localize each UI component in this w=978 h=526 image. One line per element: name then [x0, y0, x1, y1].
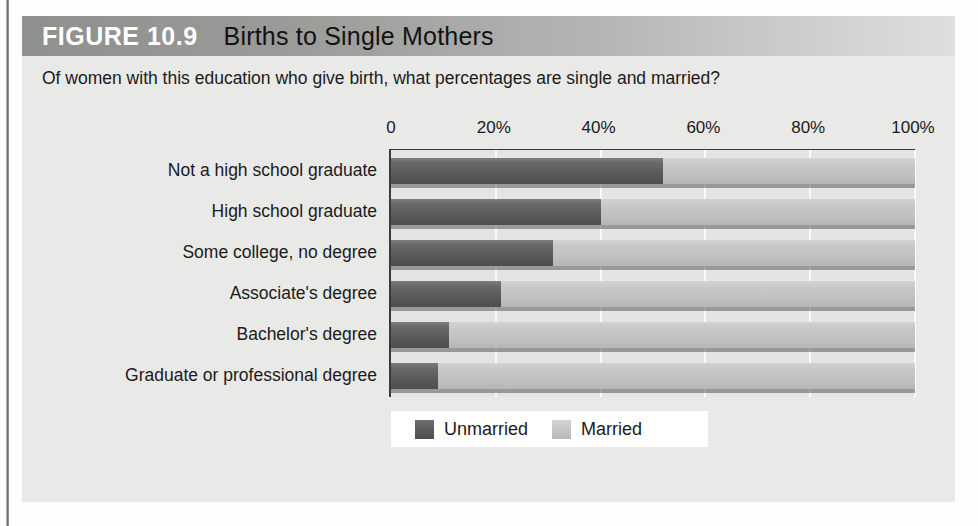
bar-row	[391, 199, 915, 225]
bar-row	[391, 322, 915, 348]
bar-segment-married	[501, 281, 915, 307]
x-tick-label: 80%	[791, 118, 825, 138]
bar-segment-married	[438, 363, 915, 389]
bar-row	[391, 363, 915, 389]
legend-label-married: Married	[581, 419, 642, 440]
category-label: Not a high school graduate	[168, 159, 377, 180]
bar-segment-unmarried	[391, 158, 663, 184]
page-gutter-line	[6, 0, 9, 526]
x-tick-label: 60%	[686, 118, 720, 138]
x-tick-label: 20%	[477, 118, 511, 138]
category-label: Bachelor's degree	[236, 324, 377, 345]
y-axis-category-labels: Not a high school graduateHigh school gr…	[22, 149, 377, 396]
bar-shadow	[391, 348, 915, 352]
legend-item-married: Married	[552, 419, 642, 440]
bar-shadow	[391, 307, 915, 311]
legend-swatch-unmarried	[415, 420, 434, 439]
bar-segment-unmarried	[391, 199, 601, 225]
bar-row	[391, 240, 915, 266]
category-label: Associate's degree	[230, 283, 377, 304]
bar-segment-married	[449, 322, 915, 348]
bar-chart: 020%40%60%80%100% Not a high school grad…	[22, 104, 955, 502]
legend-item-unmarried: Unmarried	[415, 419, 528, 440]
category-label: Some college, no degree	[182, 241, 377, 262]
x-tick-label: 40%	[582, 118, 616, 138]
bar-shadow	[391, 266, 915, 270]
plot-area	[389, 149, 915, 397]
bar-segment-unmarried	[391, 322, 449, 348]
bar-segment-unmarried	[391, 240, 553, 266]
bar-shadow	[391, 389, 915, 393]
bar-row	[391, 281, 915, 307]
figure-subtitle: Of women with this education who give bi…	[42, 68, 942, 89]
bar-segment-married	[553, 240, 915, 266]
legend-label-unmarried: Unmarried	[444, 419, 528, 440]
bar-row	[391, 158, 915, 184]
bar-shadow	[391, 184, 915, 188]
figure-title-bar: FIGURE 10.9 Births to Single Mothers	[22, 16, 955, 56]
figure-panel: FIGURE 10.9 Births to Single Mothers Of …	[22, 16, 955, 502]
category-label: Graduate or professional degree	[125, 365, 377, 386]
bar-segment-unmarried	[391, 281, 501, 307]
x-tick-label: 100%	[891, 118, 934, 138]
figure-title-text: Births to Single Mothers	[224, 22, 494, 51]
bar-segment-unmarried	[391, 363, 438, 389]
bar-segment-married	[663, 158, 915, 184]
x-axis-tick-labels: 020%40%60%80%100%	[22, 118, 955, 144]
bar-shadow	[391, 225, 915, 229]
bar-segment-married	[601, 199, 915, 225]
category-label: High school graduate	[212, 200, 377, 221]
chart-legend: Unmarried Married	[391, 411, 708, 447]
legend-swatch-married	[552, 420, 571, 439]
figure-number-label: FIGURE 10.9	[42, 22, 198, 51]
x-tick-label: 0	[386, 118, 395, 138]
